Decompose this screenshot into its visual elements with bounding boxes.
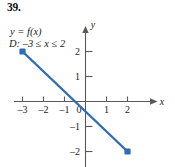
endpoint-right-closed [124,148,130,154]
x-tick-label-2: 2 [125,104,130,115]
figure-panel: 39. y = f(x) D: –3 ≤ x ≤ 2 –3 –2 –1 [0,0,175,167]
x-tick-label-1: 1 [104,104,109,115]
y-tick-label-neg1: –1 [69,121,80,132]
coordinate-graph: –3 –2 –1 0 1 2 2 1 –1 –2 x y [0,0,175,167]
y-tick-label-2: 2 [75,46,80,57]
x-axis-arrowhead [150,98,158,104]
x-tick-label-neg2: –2 [38,104,49,115]
y-tick-label-neg2: –2 [69,146,80,157]
endpoint-left-closed [19,48,25,54]
y-axis-name-label: y [90,19,96,30]
x-tick-label-neg3: –3 [17,104,28,115]
y-axis-arrowhead [82,26,88,33]
x-axis-name-label: x [159,96,165,107]
x-tick-label-neg1: –1 [59,104,70,115]
y-tick-label-1: 1 [75,71,80,82]
